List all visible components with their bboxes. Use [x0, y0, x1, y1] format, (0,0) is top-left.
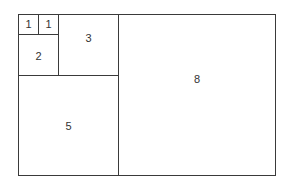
- square-label: 2: [35, 50, 41, 62]
- square-label: 8: [194, 73, 200, 85]
- square-1b: 1: [38, 14, 59, 35]
- square-2: 2: [18, 34, 59, 76]
- square-8: 8: [118, 14, 276, 176]
- square-1a: 1: [18, 14, 39, 35]
- square-5: 5: [18, 75, 119, 176]
- square-label: 1: [25, 18, 31, 30]
- square-3: 3: [58, 14, 119, 76]
- square-label: 3: [85, 32, 91, 44]
- square-label: 5: [65, 120, 71, 132]
- square-label: 1: [45, 18, 51, 30]
